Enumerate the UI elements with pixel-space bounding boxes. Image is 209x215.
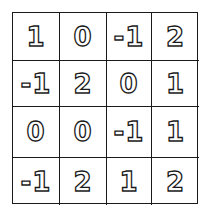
grid-cell-r1-c2: 0 — [107, 61, 152, 107]
grid-cell-r3-c3: 2 — [152, 158, 199, 205]
cell-value: -1 — [21, 71, 52, 97]
cell-value: 1 — [166, 71, 185, 97]
grid-cell-r3-c0: -1 — [13, 158, 60, 205]
grid-cell-r3-c1: 2 — [60, 158, 107, 205]
cell-value: 2 — [73, 71, 92, 97]
grid-cell-r3-c2: 1 — [107, 158, 152, 205]
grid-cell-r0-c0: 1 — [13, 13, 60, 61]
cell-value: -1 — [114, 119, 145, 145]
grid-cell-r2-c0: 0 — [13, 107, 60, 158]
grid-cell-r0-c1: 0 — [60, 13, 107, 61]
cell-value: -1 — [114, 24, 145, 50]
cell-value: 1 — [119, 169, 138, 195]
cell-value: 2 — [166, 24, 185, 50]
cell-value: 2 — [166, 169, 185, 195]
grid-cell-r1-c0: -1 — [13, 61, 60, 107]
cell-value: 1 — [26, 24, 45, 50]
grid-cell-r0-c2: -1 — [107, 13, 152, 61]
cell-value: 2 — [73, 169, 92, 195]
grid-cell-r2-c1: 0 — [60, 107, 107, 158]
cell-value: -1 — [21, 169, 52, 195]
grid-cell-r1-c3: 1 — [152, 61, 199, 107]
cell-value: 0 — [119, 71, 138, 97]
cell-value: 0 — [73, 119, 92, 145]
cell-value: 1 — [166, 119, 185, 145]
cell-value: 0 — [26, 119, 45, 145]
grid-cell-r2-c3: 1 — [152, 107, 199, 158]
cell-value: 0 — [73, 24, 92, 50]
grid-cell-r1-c1: 2 — [60, 61, 107, 107]
grid-cell-r0-c3: 2 — [152, 13, 199, 61]
number-grid: 1 0 -1 2 -1 2 0 1 0 0 -1 1 -1 2 1 2 — [12, 12, 198, 204]
grid-cell-r2-c2: -1 — [107, 107, 152, 158]
